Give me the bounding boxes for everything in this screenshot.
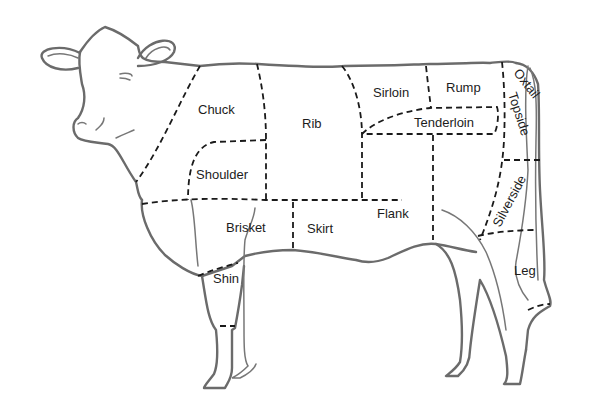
cut-label-tenderloin: Tenderloin xyxy=(414,115,474,130)
cut-label-skirt: Skirt xyxy=(307,221,333,236)
cut-label-flank: Flank xyxy=(377,206,409,221)
cow-diagram: Chuck Rib Sirloin Rump Oxtail Topside Te… xyxy=(0,0,596,415)
cut-label-rump: Rump xyxy=(446,80,481,95)
cut-label-leg: Leg xyxy=(514,263,536,278)
cut-label-sirloin: Sirloin xyxy=(373,85,409,100)
cut-label-chuck: Chuck xyxy=(198,102,235,117)
cut-label-shoulder: Shoulder xyxy=(196,167,249,182)
cut-labels: Chuck Rib Sirloin Rump Oxtail Topside Te… xyxy=(196,66,543,286)
cut-label-brisket: Brisket xyxy=(226,220,266,235)
cut-label-shin: Shin xyxy=(213,271,239,286)
cut-label-rib: Rib xyxy=(302,116,322,131)
